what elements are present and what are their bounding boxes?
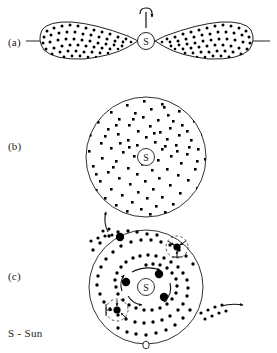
formation-diagram: (a) (b) (c) S - Sun [0, 0, 277, 353]
protoplanet-core [173, 243, 180, 250]
planetesimal-2 [155, 270, 163, 278]
sun-marker-a: S [138, 33, 155, 50]
sun-marker-c: S [138, 279, 155, 296]
sun-label-c: S [143, 282, 149, 293]
planetesimal-1 [122, 278, 130, 286]
sun-label-a: S [143, 36, 149, 47]
panel-c-group: S [89, 212, 243, 349]
escape-trail-lower-right [199, 303, 243, 320]
panel-b-group: S [83, 97, 210, 217]
planetesimal-escaping [116, 233, 124, 241]
rotation-axis-icon [140, 8, 152, 28]
diagram-canvas: S [0, 0, 277, 353]
nebula-lobe-left [40, 22, 138, 59]
planetesimal-3 [160, 293, 168, 301]
nebula-lobe-right [155, 22, 253, 59]
panel-a-group: S [26, 8, 270, 59]
sun-label-b: S [143, 152, 149, 163]
escape-trail-upper-left [89, 212, 113, 243]
escape-arrow [221, 304, 243, 306]
protoplanet-core [113, 306, 120, 313]
disk-bottom-loop-marker [143, 341, 149, 349]
sun-marker-b: S [138, 149, 155, 166]
